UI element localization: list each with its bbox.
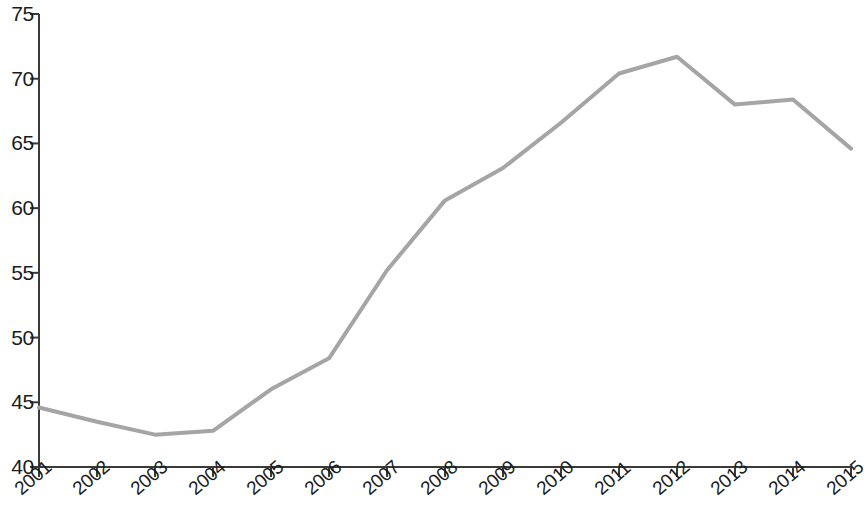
x-axis-tick-label: 2009 [475,457,519,499]
x-axis-tick-label: 2010 [533,457,577,499]
x-axis-tick-label: 2011 [591,458,634,499]
x-axis-tick-label: 2008 [417,457,461,499]
x-axis-tick-label: 2002 [69,457,113,499]
x-axis-tick-label: 2015 [823,457,867,499]
x-axis-tick-label: 2007 [359,457,403,499]
x-axis-tick-label: 2004 [185,457,229,499]
x-axis-tick-label: 2014 [765,457,809,499]
x-axis-tick-label: 2012 [649,457,693,499]
x-axis-tick-label: 2003 [127,457,171,499]
x-axis-tick-label: 2006 [301,457,345,499]
x-axis-tick-label: 2001 [11,457,55,499]
x-axis-tick-label: 2005 [243,457,287,499]
x-axis-tick-label: 2013 [707,457,751,499]
